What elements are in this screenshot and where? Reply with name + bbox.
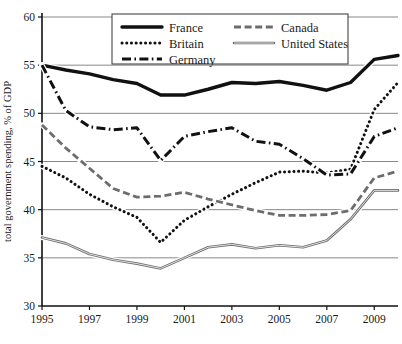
x-tick-label-1999: 1999 — [125, 313, 148, 325]
legend-label: Britain — [169, 37, 204, 51]
series-britain — [42, 83, 398, 243]
legend-label: Canada — [281, 21, 319, 35]
chart-container: 3035404550556019951997199920012003200520… — [0, 0, 402, 344]
y-tick-label-50: 50 — [24, 107, 36, 119]
y-tick-label-55: 55 — [24, 59, 36, 71]
y-axis-title: total government spending, % of GDP — [2, 81, 13, 242]
legend-label: United States — [281, 37, 348, 51]
legend-label: France — [169, 21, 203, 35]
x-tick-label-2009: 2009 — [363, 313, 386, 325]
x-tick-label-2003: 2003 — [220, 313, 243, 325]
legend-label: Germany — [169, 53, 216, 67]
series-halo — [42, 83, 398, 243]
x-tick-label-2005: 2005 — [268, 313, 291, 325]
y-tick-label-60: 60 — [24, 11, 36, 23]
x-tick-label-1997: 1997 — [78, 313, 101, 325]
y-tick-label-30: 30 — [24, 300, 36, 312]
y-tick-label-45: 45 — [24, 156, 36, 168]
line-chart: 3035404550556019951997199920012003200520… — [0, 0, 402, 344]
legend: FranceBritainGermanyCanadaUnited States — [112, 14, 348, 67]
y-tick-label-40: 40 — [24, 204, 36, 216]
y-tick-label-35: 35 — [24, 252, 36, 264]
data-series-group — [42, 56, 398, 269]
series-line — [42, 83, 398, 243]
x-tick-label-2007: 2007 — [315, 313, 338, 325]
x-tick-label-2001: 2001 — [173, 313, 196, 325]
x-tick-label-1995: 1995 — [31, 313, 54, 325]
